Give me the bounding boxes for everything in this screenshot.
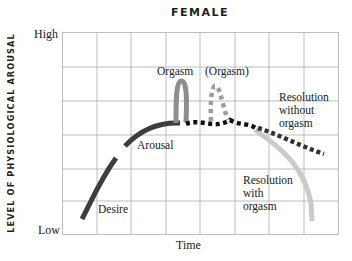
label-resolution-without-2: without (279, 104, 315, 116)
label-resolution-without-3: orgasm (279, 117, 313, 130)
optional-orgasm-line (211, 86, 228, 121)
chart-plot: Desire Arousal Orgasm (Orgasm) Resolutio… (0, 0, 352, 261)
plateau-dotted-line (186, 120, 258, 130)
label-desire: Desire (98, 203, 128, 215)
label-resolution-without-1: Resolution (279, 91, 329, 103)
label-resolution-with-3: orgasm (243, 200, 277, 213)
label-resolution-with-1: Resolution (243, 174, 293, 186)
label-resolution-with-2: with (243, 187, 264, 199)
label-optional-orgasm: (Orgasm) (205, 65, 249, 78)
orgasm-line (176, 81, 186, 123)
label-orgasm: Orgasm (157, 65, 193, 78)
label-arousal: Arousal (137, 139, 173, 151)
